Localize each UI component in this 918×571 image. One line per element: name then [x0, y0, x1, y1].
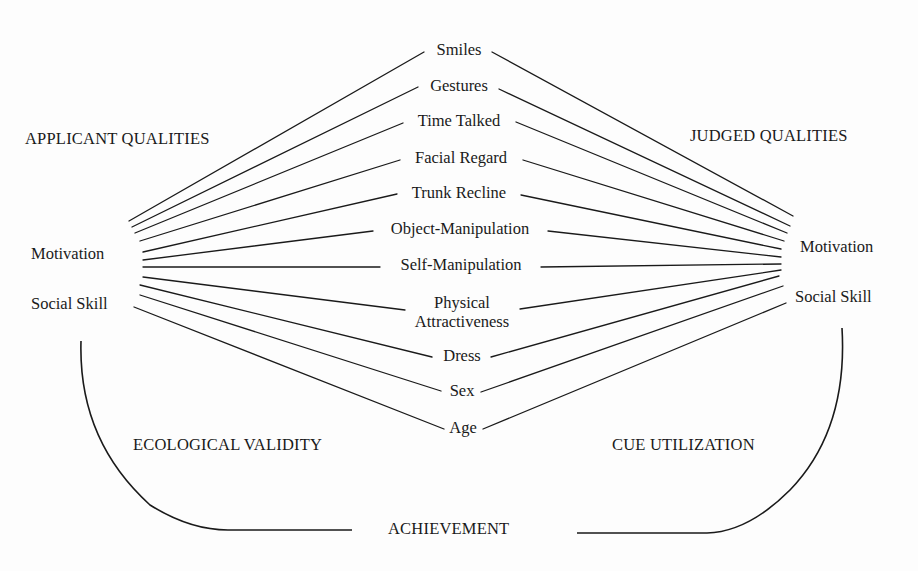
line-right-facial-regard [523, 160, 784, 241]
applicant-motivation: Motivation [31, 246, 104, 263]
judged-motivation: Motivation [800, 239, 873, 256]
cue-dress: Dress [443, 348, 481, 365]
cue-self-manipulation: Self-Manipulation [401, 257, 522, 274]
cue-object-manipulation: Object-Manipulation [391, 221, 529, 238]
line-right-self-manipulation [541, 264, 781, 267]
judged-qualities-heading: JUDGED QUALITIES [690, 128, 848, 145]
line-right-dress [491, 276, 779, 357]
line-right-gestures [499, 89, 790, 226]
cue-utilization-label: CUE UTILIZATION [612, 437, 755, 454]
achievement-label: ACHIEVEMENT [388, 521, 509, 538]
line-right-sex [481, 286, 783, 392]
line-right-physical-attractiveness [520, 270, 781, 309]
judged-social-skill: Social Skill [795, 289, 872, 306]
applicant-social-skill: Social Skill [31, 296, 108, 313]
cue-smiles: Smiles [437, 42, 482, 59]
line-right-age [483, 303, 786, 429]
cue-facial-regard: Facial Regard [415, 150, 507, 167]
line-left-age [134, 307, 444, 429]
cue-trunk-recline: Trunk Recline [412, 185, 506, 202]
cue-physical-line1: Physical [415, 293, 509, 312]
line-left-object-manipulation [143, 231, 373, 260]
cue-age: Age [449, 420, 477, 437]
lens-model-diagram: APPLICANT QUALITIES JUDGED QUALITIES Mot… [0, 0, 918, 571]
achievement-arc-right [577, 328, 843, 533]
cue-physical-attractiveness: Physical Attractiveness [415, 293, 509, 331]
line-left-physical-attractiveness [143, 277, 405, 310]
cue-gestures: Gestures [430, 78, 488, 95]
ecological-validity-label: ECOLOGICAL VALIDITY [133, 437, 322, 454]
cue-time-talked: Time Talked [418, 113, 501, 130]
line-left-facial-regard [140, 160, 400, 241]
line-right-object-manipulation [548, 231, 781, 257]
line-left-gestures [132, 87, 418, 227]
cue-physical-line2: Attractiveness [415, 312, 509, 331]
line-left-dress [140, 285, 432, 357]
applicant-qualities-heading: APPLICANT QUALITIES [25, 131, 210, 148]
cue-sex: Sex [450, 383, 475, 400]
